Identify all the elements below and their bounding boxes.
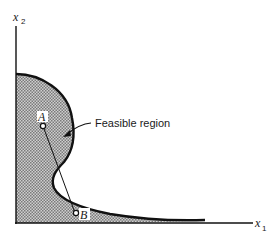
x-axis-label: x	[254, 216, 261, 230]
y-axis-subscript: 2	[21, 17, 26, 26]
feasible-region-label: Feasible region	[95, 117, 170, 129]
point-a-marker	[40, 123, 45, 128]
feasible-region-fill	[16, 74, 205, 223]
x-axis-subscript: 1	[262, 224, 267, 233]
feasible-region-diagram: x 2 x 1 A B Feasible region	[0, 0, 275, 237]
point-b-label: B	[80, 208, 88, 222]
y-axis-label: x	[12, 10, 19, 24]
point-a-label: A	[37, 110, 46, 124]
point-b-marker	[73, 210, 78, 215]
